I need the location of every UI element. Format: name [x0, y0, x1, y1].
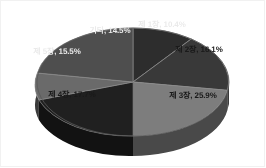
slice-label-ch5: 제 5장, 15.5%	[33, 48, 80, 56]
slice-label-etc: 기타, 14.5%	[90, 27, 131, 35]
slice-label-ch2: 제 2장, 16.1%	[175, 46, 222, 54]
pie-svg	[0, 0, 266, 168]
pie-chart-figure: 제 1장, 10.4% 제 2장, 16.1% 제 3장, 25.9% 제 4장…	[0, 0, 266, 168]
pie-stage: 제 1장, 10.4% 제 2장, 16.1% 제 3장, 25.9% 제 4장…	[0, 0, 266, 168]
slice-label-ch3: 제 3장, 25.9%	[169, 92, 216, 100]
slice-label-ch4: 제 4장, 17.7%	[48, 91, 95, 99]
slice-label-ch1: 제 1장, 10.4%	[138, 21, 185, 29]
